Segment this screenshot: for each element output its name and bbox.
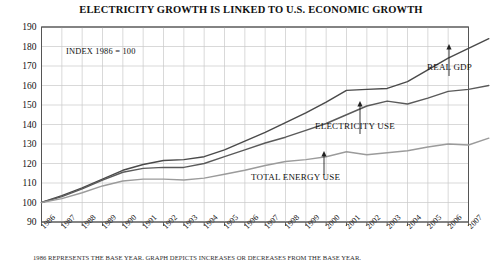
annotation-arrow-head <box>357 101 362 107</box>
y-axis-tick-label: 180 <box>22 42 37 52</box>
y-axis-tick-label: 140 <box>22 120 37 130</box>
y-axis-tick-label: 120 <box>22 159 37 169</box>
index-annotation: INDEX 1986 = 100 <box>66 47 136 56</box>
y-axis-tick-label: 90 <box>27 217 37 227</box>
chart-footnote: 1986 REPRESENTS THE BASE YEAR. GRAPH DEP… <box>33 254 361 261</box>
series-label-electricity-use: ELECTRICITY USE <box>315 121 395 131</box>
series-label-total-energy-use: TOTAL ENERGY USE <box>251 172 340 182</box>
y-axis-tick-label: 110 <box>23 178 37 188</box>
y-axis-tick-label: 130 <box>22 139 37 149</box>
series-label-real-gdp: REAL GDP <box>427 62 472 72</box>
chart-figure: ELECTRICITY GROWTH IS LINKED TO U.S. ECO… <box>0 0 502 270</box>
y-axis-tick-label: 190 <box>22 22 37 32</box>
y-axis-tick-label: 150 <box>22 100 37 110</box>
y-axis-tick-label: 160 <box>22 81 37 91</box>
line-chart-plot: 9010011012013014015016017018019019861987… <box>0 0 502 270</box>
y-axis-tick-label: 100 <box>22 198 37 208</box>
y-axis-tick-label: 170 <box>22 61 37 71</box>
